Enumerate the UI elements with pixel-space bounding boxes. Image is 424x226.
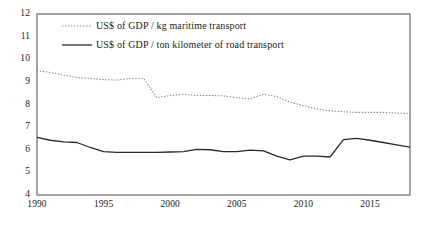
legend-entry-maritime: US$ of GDP / kg maritime transport <box>62 16 362 35</box>
y-tick-label: 4 <box>10 189 30 199</box>
y-tick-label: 5 <box>10 166 30 176</box>
legend-label-maritime: US$ of GDP / kg maritime transport <box>96 20 246 31</box>
x-tick-label: 2015 <box>350 199 390 209</box>
y-tick-label: 6 <box>10 144 30 154</box>
y-tick-label: 8 <box>10 99 30 109</box>
y-tick-label: 7 <box>10 121 30 131</box>
y-tick-label: 12 <box>10 8 30 18</box>
x-tick-label: 2000 <box>150 199 190 209</box>
dotted-line-icon <box>62 21 92 31</box>
x-tick-label: 2005 <box>217 199 257 209</box>
x-tick-label: 2010 <box>283 199 323 209</box>
chart-figure: 456789101112 199019952000200520102015 US… <box>0 0 424 226</box>
legend-entry-road: US$ of GDP / ton kilometer of road trans… <box>62 35 362 54</box>
x-tick-label: 1995 <box>84 199 124 209</box>
x-tick-label: 1990 <box>17 199 57 209</box>
solid-line-icon <box>62 40 92 50</box>
y-tick-label: 9 <box>10 76 30 86</box>
y-tick-label: 10 <box>10 53 30 63</box>
legend-label-road: US$ of GDP / ton kilometer of road trans… <box>96 39 284 50</box>
y-tick-label: 11 <box>10 31 30 41</box>
chart-legend: US$ of GDP / kg maritime transport US$ o… <box>62 16 362 54</box>
